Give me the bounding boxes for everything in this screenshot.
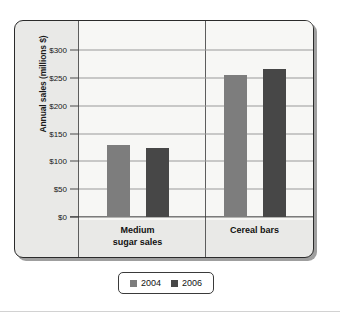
y-axis-tick-mark xyxy=(70,133,79,134)
category-label-2: Cereal bars xyxy=(196,225,313,237)
category-label-1: Mediumsugar sales xyxy=(79,225,196,248)
bars-layer xyxy=(79,21,313,220)
legend-item-2004: 2004 xyxy=(130,278,161,288)
y-axis-tick-mark xyxy=(70,161,79,162)
chart-page: Annual sales (millions $) $300$250$200$1… xyxy=(0,0,340,320)
y-axis-tick-label: $100 xyxy=(21,157,67,166)
legend-item-2006: 2006 xyxy=(171,278,202,288)
chart-legend: 2004 2006 xyxy=(118,272,214,294)
legend-label-2004: 2004 xyxy=(141,278,161,288)
category-label-line: Cereal bars xyxy=(196,225,313,237)
bar-2006-1 xyxy=(146,148,169,217)
y-axis-tick-label: $50 xyxy=(21,185,67,194)
y-axis-tick-mark xyxy=(70,105,79,106)
legend-label-2006: 2006 xyxy=(182,278,202,288)
bar-2004-2 xyxy=(224,75,247,217)
y-axis-tick-mark xyxy=(70,77,79,78)
y-axis-tick-label: $150 xyxy=(21,129,67,138)
chart-figure-frame: Annual sales (millions $) $300$250$200$1… xyxy=(14,20,314,258)
y-axis-title: Annual sales (millions $) xyxy=(38,20,48,164)
y-axis-tick-label: $250 xyxy=(21,73,67,82)
bar-2004-1 xyxy=(107,145,130,217)
y-axis-tick-label: $200 xyxy=(21,101,67,110)
category-label-line: Medium xyxy=(79,225,196,237)
category-label-line: sugar sales xyxy=(79,237,196,249)
y-axis-tick-label: $300 xyxy=(21,46,67,55)
y-axis-tick-mark xyxy=(70,50,79,51)
bar-2006-2 xyxy=(263,69,286,217)
legend-swatch-2004 xyxy=(130,280,137,287)
page-bottom-rule xyxy=(0,311,340,312)
legend-swatch-2006 xyxy=(171,280,178,287)
y-axis-tick-label: $0 xyxy=(21,213,67,222)
y-axis-tick-mark xyxy=(70,189,79,190)
